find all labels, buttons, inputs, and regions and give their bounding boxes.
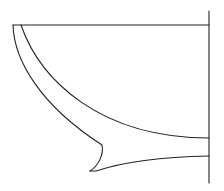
vessel-profile-drawing (0, 0, 224, 191)
outer-profile (13, 25, 102, 171)
base-line (90, 156, 209, 171)
inner-profile (21, 25, 209, 138)
drawing-canvas (0, 0, 224, 191)
